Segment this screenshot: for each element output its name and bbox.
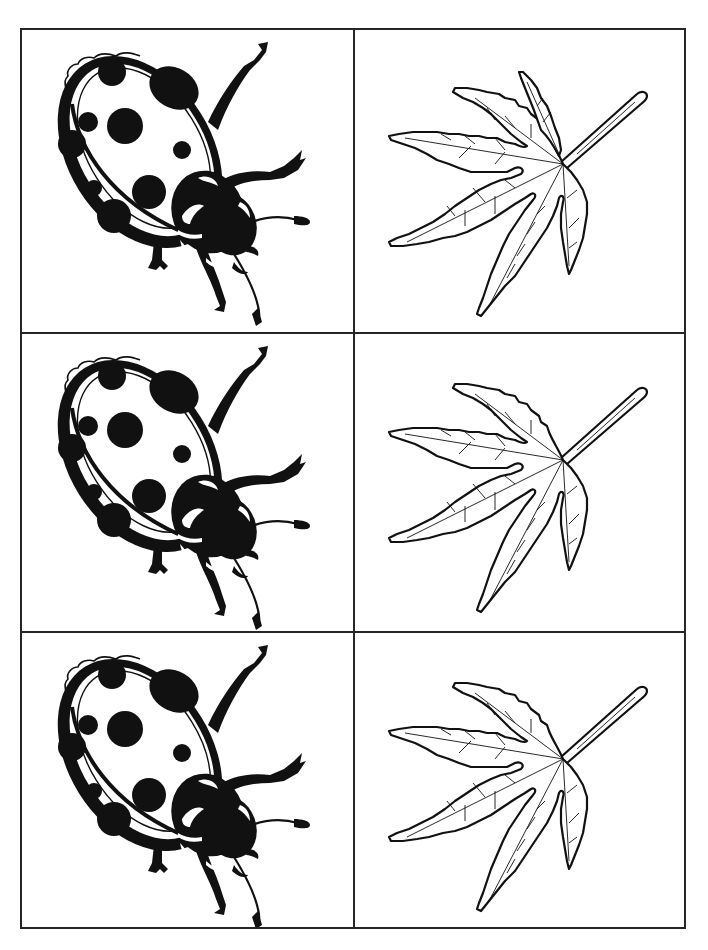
card-maple-leaf-1: Maple leaf: [355, 30, 684, 334]
ladybug-illustration: [22, 334, 353, 633]
card-maple-leaf-2: Maple leaf: [355, 334, 684, 633]
card-ladybug-3: Ladybug: [22, 633, 355, 927]
card-maple-leaf-3: Maple leaf: [355, 633, 684, 927]
ladybug-illustration: [22, 633, 353, 927]
card-ladybug-2: Ladybug: [22, 334, 355, 633]
maple-leaf-illustration: [355, 334, 684, 633]
ladybug-illustration: [22, 30, 353, 330]
maple-leaf-illustration: [355, 633, 684, 927]
card-sheet: Ladybug Maple leaf Ladybug Maple leaf La…: [20, 28, 686, 929]
card-ladybug-1: Ladybug: [22, 30, 355, 334]
maple-leaf-illustration: [355, 30, 684, 330]
